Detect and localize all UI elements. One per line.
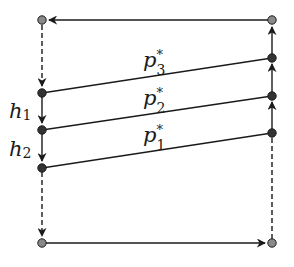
label-p3-base: p [143, 48, 156, 72]
node-right-3 [268, 54, 276, 62]
node-right-2 [268, 92, 276, 100]
node-left-3 [38, 164, 46, 172]
label-p1-sub: 1 [156, 138, 165, 152]
node-right-top [268, 16, 276, 24]
label-h2-sub: 2 [23, 145, 32, 161]
label-h1-base: h [9, 99, 23, 123]
node-left-1 [38, 89, 46, 97]
node-right-1 [268, 129, 276, 137]
label-h1: h1 [9, 101, 31, 122]
label-p3-sub: 3 [156, 63, 165, 77]
label-p1-sup: * [156, 123, 163, 136]
node-right-bottom [268, 239, 276, 247]
label-h1-sub: 1 [23, 107, 32, 123]
label-p1: p*1 [143, 125, 166, 146]
label-p2-sub: 2 [156, 101, 165, 115]
label-h2-base: h [9, 137, 23, 161]
node-left-2 [38, 126, 46, 134]
label-p3: p*3 [143, 50, 166, 71]
node-left-top [38, 16, 46, 24]
label-h2: h2 [9, 139, 31, 160]
label-p2-sup: * [156, 86, 163, 99]
node-left-bottom [38, 239, 46, 247]
label-p2: p*2 [143, 88, 166, 109]
label-p2-base: p [143, 86, 156, 110]
label-p1-base: p [143, 123, 156, 147]
label-p3-sup: * [156, 48, 163, 61]
